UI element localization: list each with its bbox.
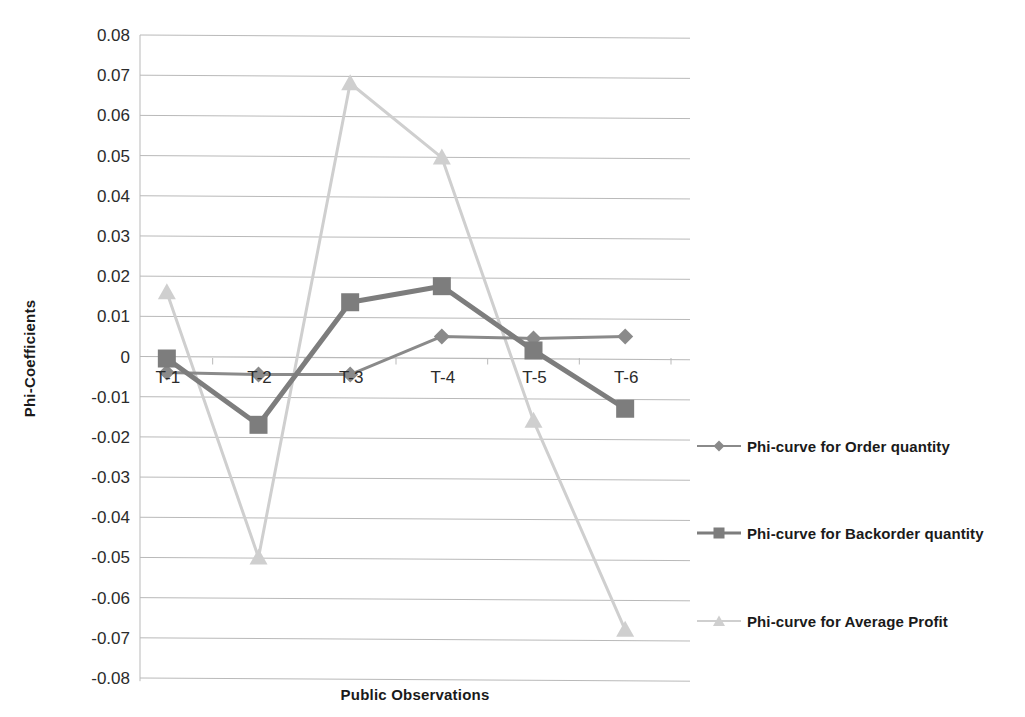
y-tick-label: 0.06: [60, 107, 130, 124]
legend-item-average-profit[interactable]: Phi-curve for Average Profit: [697, 610, 948, 632]
x-tick-label: T-6: [614, 369, 639, 386]
y-tick-label: 0.07: [60, 67, 130, 84]
legend-item-backorder-quantity[interactable]: Phi-curve for Backorder quantity: [697, 522, 984, 544]
x-tick-label: T-1: [156, 369, 181, 386]
y-tick-label: 0.03: [60, 227, 130, 244]
x-tick-label: T-2: [247, 369, 272, 386]
y-tick-label: -0.05: [60, 549, 130, 566]
x-axis-tick-labels: T-1T-2T-3T-4T-5T-6: [140, 35, 690, 678]
y-tick-label: 0.04: [60, 187, 130, 204]
chart-page: Phi-Coefficients 0.080.070.060.050.040.0…: [0, 0, 1025, 717]
legend-label-backorder-quantity: Phi-curve for Backorder quantity: [747, 525, 984, 542]
legend-marker-diamond-icon: [697, 436, 741, 456]
legend-label-average-profit: Phi-curve for Average Profit: [747, 613, 948, 630]
y-tick-label: 0.05: [60, 147, 130, 164]
y-tick-label: 0: [60, 348, 130, 365]
y-tick-label: 0.08: [60, 27, 130, 44]
y-tick-label: -0.07: [60, 629, 130, 646]
y-tick-label: -0.03: [60, 469, 130, 486]
legend-marker-triangle-icon: [697, 611, 741, 631]
y-tick-label: -0.01: [60, 388, 130, 405]
y-axis-title-label: Phi-Coefficients: [22, 300, 39, 417]
y-tick-label: -0.06: [60, 589, 130, 606]
legend-item-order-quantity[interactable]: Phi-curve for Order quantity: [697, 435, 950, 457]
y-tick-label: 0.01: [60, 308, 130, 325]
x-tick-label: T-3: [339, 369, 364, 386]
gridline: [140, 678, 690, 681]
y-tick-label: -0.02: [60, 428, 130, 445]
x-axis-title: Public Observations: [140, 686, 690, 703]
y-tick-label: -0.04: [60, 509, 130, 526]
x-tick-label: T-4: [431, 369, 456, 386]
y-tick-label: -0.08: [60, 670, 130, 687]
legend-label-order-quantity: Phi-curve for Order quantity: [747, 438, 950, 455]
legend-marker-square-icon: [697, 523, 741, 543]
x-tick-label: T-5: [522, 369, 547, 386]
y-axis-tick-labels: 0.080.070.060.050.040.030.020.010-0.01-0…: [55, 35, 130, 678]
y-tick-label: 0.02: [60, 268, 130, 285]
y-axis-title: Phi-Coefficients: [10, 0, 50, 717]
